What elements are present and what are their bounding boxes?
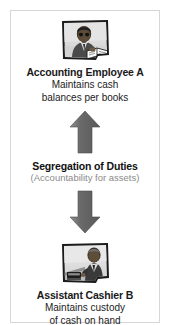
segregation-of-duties-diagram: Accounting Employee A Maintains cash bal… [10,10,160,323]
arrow-down-icon [68,190,102,234]
diagram-center-title: Segregation of Duties [31,160,140,172]
top-node-description: Maintains cash balances per books [42,79,129,104]
photo-assistant-cashier-icon [59,243,111,285]
top-node-desc-line1: Maintains cash [42,79,129,92]
bottom-node-desc-line1: Maintains custody [45,302,125,315]
top-node-desc-line2: balances per books [42,92,129,105]
photo-accounting-employee-icon [59,20,111,62]
bottom-node-title: Assistant Cashier B [37,289,133,301]
diagram-stack: Accounting Employee A Maintains cash bal… [11,11,159,322]
bottom-node-desc-line2: of cash on hand [45,315,125,325]
bottom-node-description: Maintains custody of cash on hand [45,302,125,325]
diagram-center-subtitle: (Accountability for assets) [31,172,140,184]
arrow-up-icon [68,110,102,154]
top-node-title: Accounting Employee A [26,66,143,78]
